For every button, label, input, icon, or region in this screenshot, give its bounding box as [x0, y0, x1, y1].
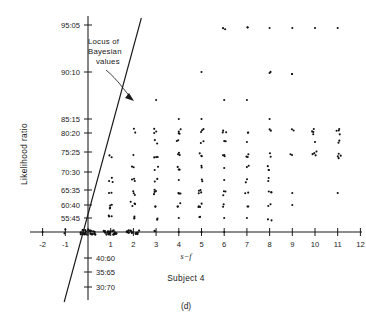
data-point	[247, 192, 249, 194]
data-point	[111, 156, 113, 158]
y-tick-label: 55:45	[61, 214, 80, 223]
data-point	[270, 130, 272, 132]
data-point	[177, 139, 179, 141]
data-point	[109, 207, 111, 209]
data-point	[224, 28, 226, 30]
x-tick-label: 3	[154, 240, 158, 249]
data-point	[156, 219, 158, 221]
x-tick-label: 10	[311, 240, 319, 249]
data-point	[126, 230, 128, 232]
data-point	[200, 191, 202, 193]
data-point	[64, 229, 66, 231]
data-point	[154, 169, 156, 171]
data-point	[90, 233, 92, 235]
data-point	[178, 118, 180, 120]
data-point	[337, 155, 339, 157]
data-point	[315, 154, 317, 156]
data-point	[156, 143, 158, 145]
data-point	[134, 180, 136, 182]
data-point	[315, 150, 317, 152]
data-point	[293, 130, 295, 132]
data-point	[198, 190, 200, 192]
data-point	[178, 217, 180, 219]
data-point	[223, 231, 225, 233]
data-point	[155, 130, 157, 132]
data-point	[108, 180, 110, 182]
data-point	[337, 27, 339, 29]
data-point	[222, 154, 224, 156]
data-point	[247, 132, 249, 134]
data-point	[128, 229, 130, 231]
data-point	[153, 132, 155, 134]
x-tick-label: 12	[356, 240, 364, 249]
data-point	[200, 71, 202, 73]
data-point	[157, 166, 159, 168]
data-point	[291, 73, 293, 75]
data-point	[314, 27, 316, 29]
x-tick-label: 5	[199, 240, 203, 249]
data-point	[133, 217, 135, 219]
data-point	[135, 232, 137, 234]
data-point	[154, 181, 156, 183]
x-tick-label: 4	[177, 240, 181, 249]
data-point	[246, 141, 248, 143]
data-point	[199, 216, 201, 218]
data-point	[110, 192, 112, 194]
data-point	[291, 128, 293, 130]
data-point	[155, 99, 157, 101]
y-axis-title: Likelihood ratio	[19, 123, 29, 185]
data-point	[222, 206, 224, 208]
data-point	[267, 165, 269, 167]
data-point	[200, 231, 202, 233]
data-point	[269, 71, 271, 73]
data-point	[338, 157, 340, 159]
data-point	[179, 133, 181, 135]
data-point	[337, 142, 339, 144]
data-point	[104, 231, 106, 233]
data-point	[267, 205, 269, 207]
data-point	[289, 153, 291, 155]
data-point	[82, 229, 84, 231]
data-point	[131, 178, 133, 180]
y-tick-label-lower: 35:65	[96, 268, 115, 277]
data-point	[155, 156, 157, 158]
data-point	[138, 229, 140, 231]
data-point	[108, 154, 110, 156]
data-point	[267, 180, 269, 182]
data-point	[87, 229, 89, 231]
annotation-arrowhead	[125, 93, 134, 101]
data-point	[108, 216, 110, 218]
data-point	[108, 231, 110, 233]
data-point	[198, 205, 200, 207]
data-point	[270, 191, 272, 193]
data-points-group	[42, 26, 342, 236]
annotation-line-2: Bayesian	[88, 47, 122, 56]
y-tick-label: 85:15	[61, 115, 80, 124]
annotation-line-1: Locus of	[88, 37, 120, 46]
data-point	[132, 154, 134, 156]
data-point	[244, 192, 246, 194]
data-point	[339, 133, 341, 135]
data-point	[222, 194, 224, 196]
data-point	[222, 131, 224, 133]
data-point	[198, 192, 200, 194]
y-tick-label-lower: 40:60	[96, 254, 115, 263]
data-point	[247, 156, 249, 158]
data-point	[246, 217, 248, 219]
data-point	[134, 132, 136, 134]
data-point	[248, 165, 250, 167]
data-point	[223, 190, 225, 192]
data-point	[153, 128, 155, 130]
data-point	[269, 118, 271, 120]
data-point	[314, 141, 316, 143]
data-point	[63, 232, 65, 234]
y-tick-label: 70:30	[61, 168, 80, 177]
data-point	[153, 193, 155, 195]
x-tick-label: 8	[267, 240, 271, 249]
data-point	[247, 205, 249, 207]
y-tick-label-lower: 30:70	[96, 283, 115, 292]
data-point	[336, 130, 338, 132]
data-point	[115, 233, 117, 235]
y-tick-label: 90:10	[61, 68, 80, 77]
data-point	[223, 99, 225, 101]
